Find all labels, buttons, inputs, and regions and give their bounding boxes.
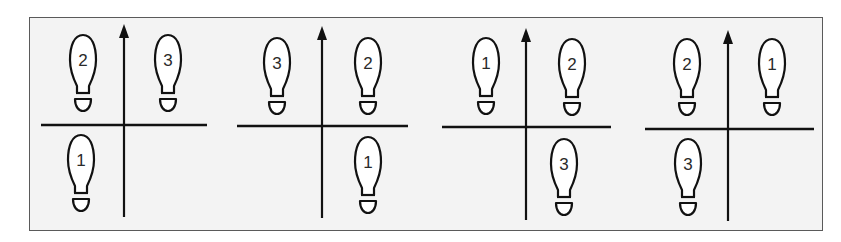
arrowhead-icon: [723, 30, 733, 44]
step-number-label: 2: [363, 54, 372, 73]
step-number-label: 1: [363, 153, 372, 172]
step-number-label: 2: [682, 55, 691, 74]
step-panel-4: 213: [645, 30, 814, 221]
arrowhead-icon: [119, 24, 129, 38]
step-number-label: 2: [78, 51, 87, 70]
step-number-label: 3: [272, 54, 281, 73]
arrowhead-icon: [521, 28, 531, 42]
footprint-icon: 2: [674, 39, 700, 115]
step-number-label: 1: [76, 151, 85, 170]
step-panel-2: 321: [237, 26, 408, 218]
footprint-icon: 1: [759, 39, 785, 115]
footstep-diagram: 231321123213: [0, 0, 841, 242]
footprint-icon: 2: [355, 38, 381, 114]
footprint-icon: 1: [355, 137, 381, 213]
step-panel-1: 231: [41, 24, 207, 217]
step-number-label: 3: [683, 155, 692, 174]
step-number-label: 1: [767, 55, 776, 74]
arrowhead-icon: [317, 26, 327, 40]
footprint-icon: 2: [559, 39, 585, 115]
footprint-icon: 1: [68, 135, 94, 211]
footprint-icon: 2: [70, 35, 96, 111]
footprint-icon: 1: [473, 38, 499, 114]
step-number-label: 1: [481, 54, 490, 73]
footprint-icon: 3: [155, 35, 181, 111]
step-number-label: 3: [559, 155, 568, 174]
panels-layer: 231321123213: [41, 24, 814, 221]
footprint-icon: 3: [551, 139, 577, 215]
step-panel-3: 123: [442, 28, 611, 220]
step-number-label: 2: [567, 55, 576, 74]
step-number-label: 3: [163, 51, 172, 70]
footprint-icon: 3: [675, 139, 701, 215]
footprint-icon: 3: [264, 38, 290, 114]
